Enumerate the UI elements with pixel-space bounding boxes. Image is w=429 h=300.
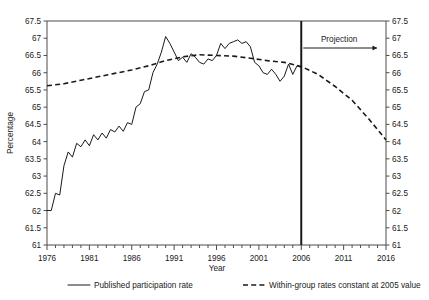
y-tick-label-right: 65.5	[392, 86, 408, 95]
y-tick-label-right: 67.5	[392, 17, 408, 26]
x-tick-label: 2011	[335, 254, 353, 263]
x-tick-label: 2006	[292, 254, 311, 263]
projection-label: Projection	[321, 35, 358, 44]
y-tick-label-right: 62.5	[392, 189, 408, 198]
y-tick-label-left: 63.5	[25, 155, 41, 164]
y-tick-label-right: 63	[392, 172, 402, 181]
y-tick-label-right: 66.5	[392, 51, 408, 60]
x-tick-label: 1976	[38, 254, 57, 263]
x-tick-label: 1991	[165, 254, 184, 263]
x-tick-label: 2001	[250, 254, 269, 263]
y-tick-label-left: 65	[32, 103, 42, 112]
y-tick-label-right: 63.5	[392, 155, 408, 164]
y-axis-title: Percentage	[6, 112, 15, 154]
y-tick-label-left: 66	[32, 69, 42, 78]
y-tick-label-right: 64.5	[392, 120, 408, 129]
y-tick-label-left: 67.5	[25, 17, 41, 26]
x-tick-label: 1986	[123, 254, 142, 263]
y-tick-label-right: 66	[392, 69, 402, 78]
y-tick-label-left: 66.5	[25, 51, 41, 60]
y-tick-label-right: 62	[392, 207, 402, 216]
y-tick-label-right: 61.5	[392, 224, 408, 233]
y-tick-label-left: 67	[32, 34, 42, 43]
y-tick-label-right: 61	[392, 241, 402, 250]
legend-label: Within-group rates constant at 2005 valu…	[269, 281, 421, 290]
y-tick-label-left: 64.5	[25, 120, 41, 129]
y-tick-label-right: 64	[392, 138, 402, 147]
y-tick-label-left: 63	[32, 172, 42, 181]
y-tick-label-right: 65	[392, 103, 402, 112]
y-tick-label-left: 62	[32, 207, 42, 216]
x-tick-label: 1981	[80, 254, 99, 263]
chart-container: 6161.56262.56363.56464.56565.56666.56767…	[0, 0, 429, 300]
x-tick-label: 2016	[377, 254, 396, 263]
x-tick-label: 1996	[207, 254, 226, 263]
y-tick-label-left: 62.5	[25, 189, 41, 198]
participation-rate-line-chart: 6161.56262.56363.56464.56565.56666.56767…	[0, 0, 429, 300]
y-tick-label-right: 67	[392, 34, 402, 43]
legend-label: Published participation rate	[94, 281, 193, 290]
y-tick-label-left: 64	[32, 138, 42, 147]
y-tick-label-left: 61.5	[25, 224, 41, 233]
x-axis-title: Year	[209, 264, 226, 273]
y-tick-label-left: 61	[32, 241, 42, 250]
y-tick-label-left: 65.5	[25, 86, 41, 95]
